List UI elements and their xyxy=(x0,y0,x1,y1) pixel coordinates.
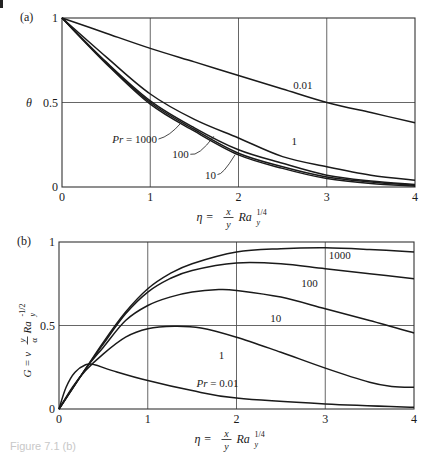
x-tick-label: 4 xyxy=(412,190,418,204)
svg-text:1/4: 1/4 xyxy=(257,208,267,217)
y-axis-label: θ xyxy=(26,96,32,110)
svg-text:10: 10 xyxy=(205,169,217,181)
figure: 0123400.51(a)η =xyRa1/4yθ0.011Pr = 10001… xyxy=(0,0,432,459)
figure-caption: Figure 7.1 (b) xyxy=(10,440,76,452)
svg-text:Pr = 1000: Pr = 1000 xyxy=(111,133,157,145)
svg-text:1000: 1000 xyxy=(329,249,352,261)
chart-panel-a: 0123400.51(a)η =xyRa1/4yθ0.011Pr = 10001… xyxy=(20,10,418,230)
svg-text:1: 1 xyxy=(291,135,297,147)
curve-annotation: 1 xyxy=(291,135,297,147)
y-tick-label: 0.5 xyxy=(40,319,55,333)
svg-text:y: y xyxy=(256,218,261,227)
curve-annotation: 1000 xyxy=(329,249,352,261)
x-tick-label: 0 xyxy=(56,412,62,426)
svg-text:y: y xyxy=(223,441,229,452)
svg-text:Ra: Ra xyxy=(238,210,252,224)
svg-text:y: y xyxy=(254,440,259,449)
svg-text:Pr = 0.01: Pr = 0.01 xyxy=(196,377,239,389)
svg-text:Ra: Ra xyxy=(21,321,33,335)
svg-text:100: 100 xyxy=(172,148,189,160)
svg-text:y: y xyxy=(225,219,231,230)
leader-line xyxy=(159,123,182,139)
y-axis-label: G = vyαRa-1/2y xyxy=(17,304,39,378)
curve-annotation: 10 xyxy=(270,312,282,324)
x-tick-label: 1 xyxy=(145,412,151,426)
panel-label: (b) xyxy=(17,234,31,248)
panel-label: (a) xyxy=(20,10,33,24)
curve-annotation: 100 xyxy=(172,136,213,160)
x-tick-label: 3 xyxy=(324,190,330,204)
svg-text:x: x xyxy=(223,428,229,439)
y-tick-label: 0 xyxy=(49,402,55,416)
y-tick-label: 1 xyxy=(52,11,58,25)
curve-annotation: Pr = 0.01 xyxy=(196,377,239,389)
curve-annotation: 100 xyxy=(301,277,318,289)
x-axis-label: η =xyRa1/4y xyxy=(195,428,265,452)
x-tick-label: 4 xyxy=(411,412,417,426)
svg-text:η =: η = xyxy=(197,210,214,224)
y-tick-label: 0.5 xyxy=(43,96,58,110)
svg-text:-1/2: -1/2 xyxy=(18,304,27,317)
svg-text:η =: η = xyxy=(195,432,212,446)
svg-text:1: 1 xyxy=(219,349,225,361)
svg-text:G = v: G = v xyxy=(21,352,33,378)
svg-text:y: y xyxy=(28,313,37,318)
x-tick-label: 0 xyxy=(59,190,65,204)
svg-text:x: x xyxy=(225,206,231,217)
curve-annotation: 1 xyxy=(219,349,225,361)
curve-annotation: Pr = 1000 xyxy=(111,123,181,145)
svg-text:10: 10 xyxy=(270,312,282,324)
x-tick-label: 3 xyxy=(322,412,328,426)
svg-text:Ra: Ra xyxy=(236,432,250,446)
y-tick-label: 1 xyxy=(49,235,55,249)
x-axis-label: η =xyRa1/4y xyxy=(197,206,267,230)
y-tick-label: 0 xyxy=(52,180,58,194)
svg-text:0.01: 0.01 xyxy=(293,79,312,91)
x-tick-label: 1 xyxy=(147,190,153,204)
curve-annotation: 10 xyxy=(205,155,235,181)
svg-text:α: α xyxy=(29,338,39,343)
svg-text:100: 100 xyxy=(301,277,318,289)
curve-annotation: 0.01 xyxy=(293,79,312,91)
x-tick-label: 2 xyxy=(236,190,242,204)
leader-line xyxy=(217,155,235,175)
svg-text:1/4: 1/4 xyxy=(255,430,265,439)
chart-panel-b: 0123400.51(b)η =xyRa1/4yG = vyαRa-1/2y10… xyxy=(17,234,417,452)
svg-text:y: y xyxy=(17,339,27,344)
x-tick-label: 2 xyxy=(234,412,240,426)
